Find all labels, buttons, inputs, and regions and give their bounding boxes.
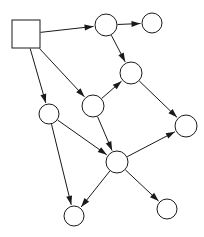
graph-node-circle[interactable] — [175, 115, 197, 137]
arrow-head-icon — [40, 93, 46, 102]
arrow-head-icon — [81, 198, 89, 207]
graph-node-circle[interactable] — [64, 206, 84, 226]
arrow-head-icon — [84, 24, 93, 30]
arrow-head-icon — [98, 147, 107, 155]
graph-node-square[interactable] — [12, 20, 40, 48]
graph-edge — [52, 124, 72, 205]
graph-node-circle[interactable] — [120, 62, 142, 84]
arrow-head-icon — [131, 21, 140, 27]
arrow-head-icon — [66, 195, 72, 204]
graph-svg — [0, 0, 204, 237]
graph-node-circle[interactable] — [39, 104, 59, 124]
graph-node-circle[interactable] — [82, 95, 104, 117]
graph-node-circle[interactable] — [157, 199, 177, 219]
arrow-head-icon — [166, 132, 175, 139]
graph-node-circle[interactable] — [142, 13, 162, 33]
graph-node-circle[interactable] — [95, 14, 117, 36]
graph-edge — [39, 49, 84, 97]
arrow-head-icon — [106, 141, 112, 150]
arrow-head-icon — [118, 53, 125, 62]
graph-node-circle[interactable] — [106, 151, 128, 173]
diagram-canvas — [0, 0, 204, 237]
node-layer — [12, 13, 197, 226]
graph-edge — [58, 120, 107, 155]
